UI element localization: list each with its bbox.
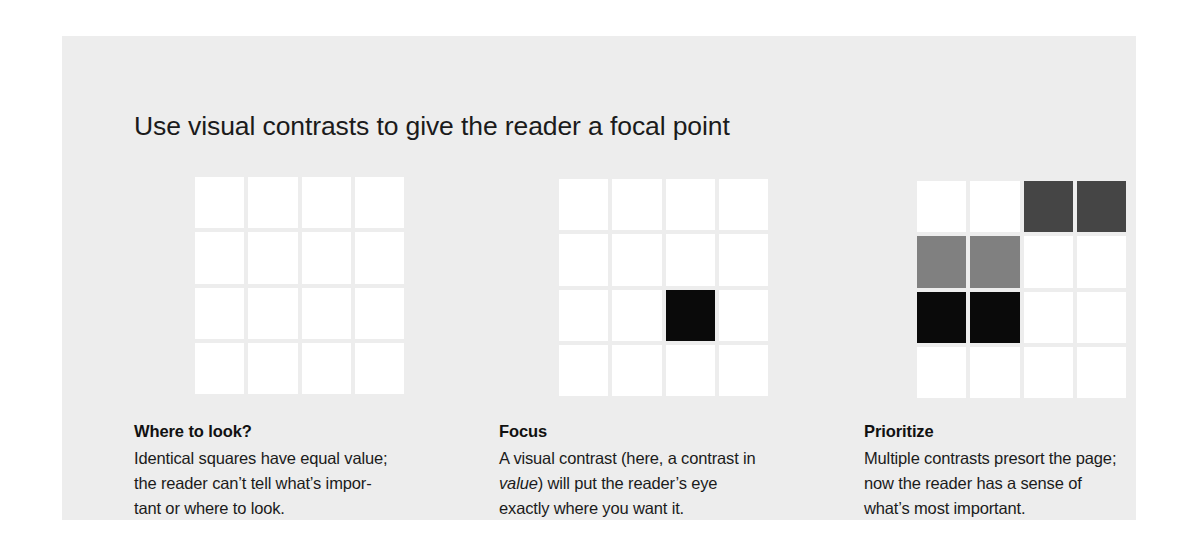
grid-cell-white: [559, 290, 608, 341]
grid-cell-light-gray: [917, 236, 966, 287]
caption-line: value: [499, 474, 538, 492]
grid-cell-white: [1077, 347, 1126, 398]
grid-cell-white: [559, 179, 608, 230]
caption-line: A visual contrast (here, a contrast in: [499, 449, 756, 467]
square-grid-all-equal: [195, 177, 404, 394]
grid-cell-white: [666, 345, 715, 396]
grid-cell-white: [355, 232, 404, 283]
square-grid-single-focus: [559, 179, 768, 396]
caption-block-focus: Focus A visual contrast (here, a contras…: [499, 422, 839, 521]
grid-cell-white: [355, 288, 404, 339]
grid-cell-white: [1024, 347, 1073, 398]
caption-line: tant or where to look.: [134, 499, 285, 517]
grid-cell-white: [666, 179, 715, 230]
caption-line: exactly where you want it.: [499, 499, 684, 517]
caption-heading: Prioritize: [864, 422, 1196, 441]
caption-body: Multiple contrasts presort the page;now …: [864, 446, 1196, 521]
caption-line: ) will put the reader’s eye: [538, 474, 718, 492]
caption-body: A visual contrast (here, a contrast inva…: [499, 446, 839, 521]
caption-line: the reader can’t tell what’s impor-: [134, 474, 371, 492]
caption-line: Multiple contrasts presort the page;: [864, 449, 1116, 467]
grid-cell-white: [917, 181, 966, 232]
grid-cell-white: [1077, 236, 1126, 287]
grid-cell-white: [612, 290, 661, 341]
grid-cell-white: [302, 232, 351, 283]
grid-cell-white: [355, 343, 404, 394]
grid-cell-white: [917, 347, 966, 398]
grid-cell-white: [248, 288, 297, 339]
grid-cell-white: [719, 345, 768, 396]
grid-cell-black: [917, 292, 966, 343]
grid-cell-white: [355, 177, 404, 228]
grid-cell-white: [1077, 292, 1126, 343]
caption-body: Identical squares have equal value;the r…: [134, 446, 484, 521]
grid-cell-white: [559, 234, 608, 285]
grid-cell-white: [248, 343, 297, 394]
grid-cell-white: [302, 288, 351, 339]
illustration-panel: Use visual contrasts to give the reader …: [62, 36, 1136, 520]
grid-cell-light-gray: [970, 236, 1019, 287]
caption-line: now the reader has a sense of: [864, 474, 1082, 492]
grid-cell-white: [195, 177, 244, 228]
grid-cell-dark-gray: [1077, 181, 1126, 232]
grid-cell-white: [559, 345, 608, 396]
grid-cell-dark-gray: [1024, 181, 1073, 232]
caption-block-prioritize: Prioritize Multiple contrasts presort th…: [864, 422, 1196, 521]
grid-cell-white: [195, 343, 244, 394]
page-title: Use visual contrasts to give the reader …: [134, 111, 730, 142]
grid-cell-white: [302, 177, 351, 228]
grid-cell-white: [970, 347, 1019, 398]
grid-cell-white: [719, 290, 768, 341]
grid-cell-black: [666, 290, 715, 341]
grid-cell-white: [612, 345, 661, 396]
grid-cell-white: [195, 232, 244, 283]
grid-cell-white: [1024, 236, 1073, 287]
grid-cell-white: [302, 343, 351, 394]
grid-cell-white: [612, 234, 661, 285]
caption-heading: Focus: [499, 422, 839, 441]
grid-cell-white: [719, 234, 768, 285]
grid-cell-black: [970, 292, 1019, 343]
caption-block-where-to-look: Where to look? Identical squares have eq…: [134, 422, 484, 521]
grid-cell-white: [719, 179, 768, 230]
grid-cell-white: [248, 232, 297, 283]
grid-cell-white: [666, 234, 715, 285]
caption-heading: Where to look?: [134, 422, 484, 441]
grid-cell-white: [970, 181, 1019, 232]
grid-cell-white: [612, 179, 661, 230]
caption-line: Identical squares have equal value;: [134, 449, 387, 467]
square-grid-prioritized: [917, 181, 1126, 398]
caption-line: what’s most important.: [864, 499, 1025, 517]
grid-cell-white: [248, 177, 297, 228]
grid-cell-white: [195, 288, 244, 339]
grid-cell-white: [1024, 292, 1073, 343]
